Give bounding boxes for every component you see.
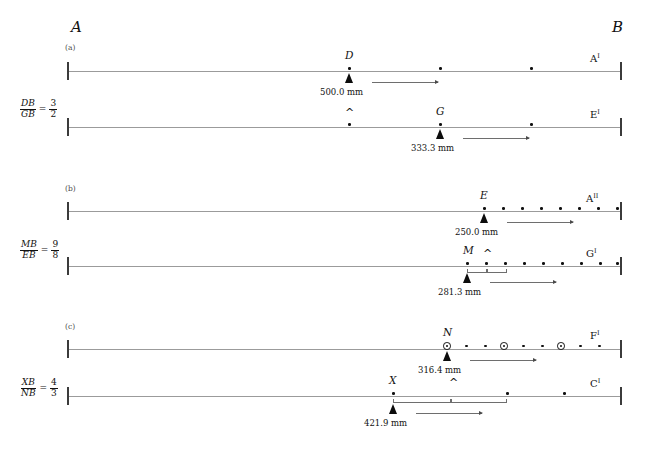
axis-dot	[598, 345, 601, 348]
ratio-c: XB NB = 4 3	[20, 378, 58, 399]
right-label-b2: GI	[586, 247, 597, 259]
measure-arrow-b1	[507, 222, 573, 223]
ratio-a-left-fraction: DB GB	[20, 99, 36, 120]
axis-dot	[522, 345, 525, 348]
measure-label-b1: 250.0 mm	[455, 227, 498, 237]
caret-icon-c2: ^	[449, 377, 458, 388]
axis-endtick-right-c2	[620, 387, 622, 405]
ratio-b-equals: =	[41, 245, 49, 255]
axis-dot	[446, 345, 449, 348]
axis-dot	[542, 262, 545, 265]
axis-dot	[348, 67, 351, 70]
ratio-a: DB GB = 3 2	[20, 99, 57, 120]
right-label-c2: CI	[590, 377, 600, 389]
axis-dot	[521, 207, 524, 210]
axis-dot	[523, 262, 526, 265]
measure-arrow-c1	[470, 360, 536, 361]
point-label-G: G	[436, 105, 444, 117]
ratio-b-right-fraction: 9 8	[51, 240, 59, 261]
span-bracket-b2-right	[487, 269, 507, 273]
axis-dot	[439, 67, 442, 70]
axis-endtick-left-a2	[67, 118, 69, 136]
ratio-b: MB EB = 9 8	[20, 240, 59, 261]
axis-dot	[439, 123, 442, 126]
pointer-triangle-a1	[345, 73, 353, 83]
axis-dot	[597, 207, 600, 210]
ratio-b-value-denominator: 8	[51, 251, 59, 261]
axis-line-a1	[68, 71, 621, 72]
ratio-c-left-fraction: XB NB	[20, 378, 37, 399]
ratio-b-numerator: MB	[20, 240, 38, 251]
ratio-a-right-fraction: 3 2	[49, 99, 57, 120]
axis-dot	[561, 262, 564, 265]
axis-dot	[530, 123, 533, 126]
axis-dot	[392, 392, 395, 395]
ratio-b-denominator: EB	[21, 251, 36, 261]
point-label-D: D	[345, 49, 353, 61]
ratio-c-denominator: NB	[20, 389, 37, 399]
point-label-E: E	[480, 189, 488, 201]
ratio-a-value-numerator: 3	[49, 99, 57, 110]
caret-icon-a2: ^	[345, 107, 354, 118]
axis-dot	[506, 392, 509, 395]
panel-tag-b: (b)	[65, 184, 76, 193]
axis-dot	[466, 262, 469, 265]
measure-label-c1: 316.4 mm	[418, 365, 461, 375]
axis-line-b1	[68, 211, 621, 212]
pointer-triangle-b1	[480, 213, 488, 223]
axis-endtick-right-b1	[620, 202, 622, 220]
axis-dot	[559, 207, 562, 210]
axis-dot	[580, 262, 583, 265]
pointer-triangle-c1	[443, 351, 451, 361]
measure-label-a1: 500.0 mm	[320, 87, 363, 97]
axis-endtick-left-c2	[67, 387, 69, 405]
axis-endtick-right-a2	[620, 118, 622, 136]
axis-endtick-right-b2	[620, 257, 622, 275]
measure-arrow-a1	[372, 82, 438, 83]
ratio-a-denominator: GB	[20, 110, 36, 120]
ratio-c-numerator: XB	[21, 378, 36, 389]
endpoint-label-B: B	[612, 18, 623, 36]
axis-dot	[563, 392, 566, 395]
axis-dot	[348, 123, 351, 126]
span-bracket-c2-left	[393, 399, 451, 403]
axis-line-b2	[68, 266, 621, 267]
axis-dot	[504, 262, 507, 265]
ratio-c-equals: =	[40, 383, 48, 393]
point-label-M: M	[463, 244, 474, 256]
pointer-triangle-c2	[389, 404, 397, 414]
axis-dot	[541, 345, 544, 348]
axis-dot	[485, 262, 488, 265]
axis-dot	[616, 262, 619, 265]
measure-arrow-a2	[463, 138, 529, 139]
ratio-c-value-numerator: 4	[50, 378, 58, 389]
axis-endtick-left-c1	[67, 340, 69, 358]
axis-endtick-right-c1	[620, 340, 622, 358]
axis-dot	[616, 207, 619, 210]
right-label-a1: AI	[590, 52, 600, 64]
endpoint-label-A: A	[71, 18, 82, 36]
right-label-c1: FI	[590, 329, 600, 341]
measure-label-b2: 281.3 mm	[438, 287, 481, 297]
axis-dot	[560, 345, 563, 348]
axis-dot	[484, 345, 487, 348]
axis-endtick-left-a1	[67, 62, 69, 80]
span-bracket-c2-right	[451, 399, 507, 403]
ratio-a-numerator: DB	[20, 99, 36, 110]
ratio-c-value-denominator: 3	[50, 389, 58, 399]
axis-dot	[502, 207, 505, 210]
axis-dot	[579, 345, 582, 348]
ratio-b-left-fraction: MB EB	[20, 240, 38, 261]
measure-arrow-b2	[490, 282, 556, 283]
axis-dot	[503, 345, 506, 348]
point-label-X: X	[389, 374, 396, 386]
measure-label-c2: 421.9 mm	[364, 418, 407, 428]
ratio-a-equals: =	[39, 104, 47, 114]
right-label-a2: EI	[590, 108, 600, 120]
axis-dot	[599, 262, 602, 265]
ratio-a-value-denominator: 2	[49, 110, 57, 120]
pointer-triangle-a2	[436, 129, 444, 139]
ratio-b-value-numerator: 9	[51, 240, 59, 251]
axis-dot	[483, 207, 486, 210]
ratio-c-right-fraction: 4 3	[50, 378, 58, 399]
